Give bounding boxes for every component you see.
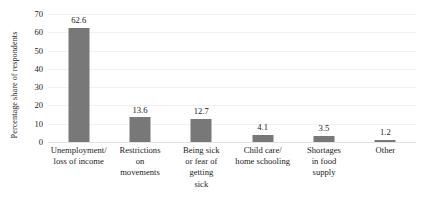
bar-value-label: 12.7: [194, 107, 209, 116]
category-label: Shortagesin foodsupply: [293, 145, 354, 179]
plot-area: 010203040506070 62.613.612.74.13.51.2: [48, 14, 416, 142]
category-label-line: or fear of: [171, 156, 232, 167]
category-label-line: Restrictions: [109, 145, 170, 156]
category-label-line: getting: [171, 167, 232, 178]
category-label-line: on: [109, 156, 170, 167]
category-label-line: Unemployment/: [48, 145, 109, 156]
bar[interactable]: [68, 28, 89, 142]
x-axis-category-labels: Unemployment/loss of incomeRestrictionso…: [48, 145, 416, 199]
category-label: Child care/home schooling: [232, 145, 293, 167]
bar[interactable]: [252, 135, 273, 142]
bar-value-label: 1.2: [380, 128, 391, 137]
bar[interactable]: [129, 117, 150, 142]
bar-group[interactable]: 3.5: [293, 14, 354, 142]
y-axis-title: Percentage share of respondents: [8, 10, 22, 160]
gridline: [48, 142, 416, 143]
y-tick-label: 40: [34, 65, 43, 74]
category-label-line: sick: [171, 179, 232, 190]
bar-value-label: 4.1: [257, 123, 268, 132]
category-label-line: in food: [293, 156, 354, 167]
category-label-line: Being sick: [171, 145, 232, 156]
category-label: Unemployment/loss of income: [48, 145, 109, 167]
y-tick-label: 60: [34, 28, 43, 37]
bars-layer: 62.613.612.74.13.51.2: [48, 14, 416, 142]
category-label-line: supply: [293, 167, 354, 178]
category-label: Other: [355, 145, 416, 156]
bar-group[interactable]: 4.1: [232, 14, 293, 142]
y-tick-label: 30: [34, 83, 43, 92]
category-label: Restrictionsonmovements: [109, 145, 170, 179]
category-label-line: movements: [109, 167, 170, 178]
y-tick-label: 70: [34, 10, 43, 19]
bar-group[interactable]: 1.2: [355, 14, 416, 142]
bar-value-label: 3.5: [319, 124, 330, 133]
y-tick-label: 10: [34, 119, 43, 128]
y-tick-label: 50: [34, 46, 43, 55]
category-label-line: loss of income: [48, 156, 109, 167]
bar-group[interactable]: 12.7: [171, 14, 232, 142]
category-label: Being sickor fear ofgettingsick: [171, 145, 232, 190]
bar-value-label: 13.6: [132, 106, 147, 115]
category-label-line: home schooling: [232, 156, 293, 167]
bar[interactable]: [191, 119, 212, 142]
category-label-line: Shortages: [293, 145, 354, 156]
category-label-line: Other: [355, 145, 416, 156]
y-tick-label: 0: [39, 138, 43, 147]
bar[interactable]: [313, 136, 334, 142]
bar[interactable]: [375, 140, 396, 142]
y-tick-label: 20: [34, 101, 43, 110]
bar-group[interactable]: 13.6: [109, 14, 170, 142]
category-label-line: Child care/: [232, 145, 293, 156]
bar-value-label: 62.6: [71, 16, 86, 25]
bar-chart: Percentage share of respondents 01020304…: [0, 0, 421, 199]
bar-group[interactable]: 62.6: [48, 14, 109, 142]
